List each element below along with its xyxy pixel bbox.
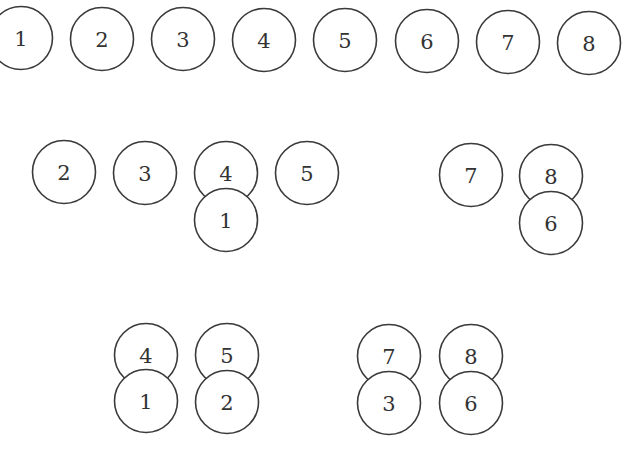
numbered-circle: 7	[440, 144, 503, 207]
numbered-circle: 6	[396, 10, 459, 73]
circle-number-label: 6	[420, 30, 433, 54]
diagram-rows: 123456782341578641527386	[0, 7, 621, 435]
circle-number-label: 8	[464, 345, 477, 369]
circle-number-label: 8	[544, 165, 557, 189]
circle-number-label: 3	[176, 28, 189, 52]
circle-number-label: 3	[138, 162, 151, 186]
numbered-circle: 3	[114, 142, 177, 205]
row-1-all-separate: 12345678	[0, 7, 621, 75]
circle-number-label: 4	[257, 29, 270, 53]
circle-number-label: 4	[139, 344, 152, 368]
numbered-circle: 6	[520, 192, 583, 255]
numbered-circle: 5	[314, 9, 377, 72]
numbered-circle: 7	[477, 11, 540, 74]
row-3-fully-paired: 41527386	[115, 324, 503, 435]
circle-number-label: 7	[382, 345, 395, 369]
circle-number-label: 8	[582, 32, 595, 56]
circle-number-label: 5	[338, 29, 351, 53]
numbered-circle: 1	[195, 189, 258, 252]
numbered-circle: 2	[71, 8, 134, 71]
circle-number-label: 1	[14, 27, 27, 51]
circle-number-label: 7	[501, 31, 514, 55]
numbered-circle: 3	[152, 8, 215, 71]
numbered-circle: 5	[276, 142, 339, 205]
circle-number-label: 1	[219, 209, 232, 233]
numbered-circle: 1	[115, 370, 178, 433]
circle-number-label: 5	[300, 162, 313, 186]
circle-number-label: 2	[220, 391, 233, 415]
circle-number-label: 2	[95, 28, 108, 52]
numbered-circle: 1	[0, 7, 53, 70]
circle-number-label: 1	[139, 390, 152, 414]
numbered-circle: 3	[358, 372, 421, 435]
circle-number-label: 7	[464, 164, 477, 188]
numbered-circle: 4	[233, 9, 296, 72]
numbered-circle: 6	[440, 372, 503, 435]
circle-number-label: 2	[57, 161, 70, 185]
circle-number-label: 3	[382, 392, 395, 416]
circle-number-label: 6	[544, 212, 557, 236]
circle-number-label: 4	[219, 162, 232, 186]
numbered-circle: 2	[196, 371, 259, 434]
numbered-circle: 8	[558, 12, 621, 75]
circle-number-label: 6	[464, 392, 477, 416]
circle-pairing-diagram: 123456782341578641527386	[0, 0, 622, 450]
row-2-partially-stacked: 23415786	[33, 141, 583, 255]
numbered-circle: 2	[33, 141, 96, 204]
circle-number-label: 5	[220, 344, 233, 368]
